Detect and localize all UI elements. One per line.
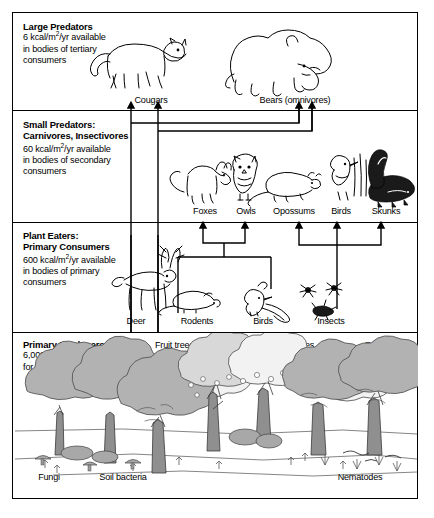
bracket-right-group bbox=[299, 235, 381, 245]
bracket-to-bears-b bbox=[158, 105, 312, 131]
energy-pyramid-diagram: Large Predators 6 kcal/m2/yr available i… bbox=[0, 0, 434, 518]
energy-flow-arrows bbox=[13, 13, 419, 500]
bracket-foxes-owls bbox=[203, 235, 245, 243]
diagram-frame: Large Predators 6 kcal/m2/yr available i… bbox=[12, 12, 418, 499]
bracket-to-bears-a bbox=[131, 105, 299, 123]
